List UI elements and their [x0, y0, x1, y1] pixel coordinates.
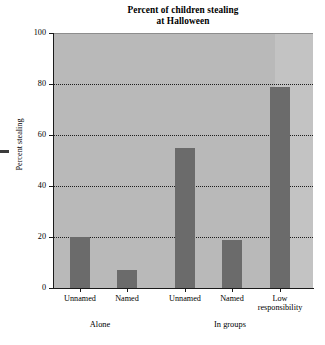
group-label-in-groups-text: In groups — [214, 320, 246, 329]
group-label-alone: Alone — [68, 320, 132, 329]
y-tick-label-100: 100 — [6, 29, 46, 37]
x-tick-label-low-line2: responsibility — [243, 303, 317, 312]
x-tick-3 — [185, 288, 186, 292]
y-tick-label-40: 40 — [6, 182, 46, 190]
x-tick-label-low-line1: Low — [272, 294, 287, 303]
y-tick-label-80: 80 — [6, 80, 46, 88]
x-tick-4 — [232, 288, 233, 292]
y-axis-title: Percent stealing — [15, 95, 24, 195]
chart-figure: Percent of children stealing at Hallowee… — [0, 0, 325, 345]
y-tick-60 — [49, 135, 53, 136]
y-tick-label-60: 60 — [6, 131, 46, 139]
chart-title: Percent of children stealing at Hallowee… — [53, 5, 313, 26]
x-tick-2 — [127, 288, 128, 292]
x-tick-label-alone-unnamed-line1: Unnamed — [64, 294, 96, 303]
y-tick-label-20: 20 — [6, 233, 46, 241]
scan-edge-artifact — [0, 150, 9, 153]
chart-title-line-1: Percent of children stealing — [53, 5, 313, 16]
y-tick-40 — [49, 186, 53, 187]
x-tick-label-alone-named: Named — [95, 294, 159, 303]
group-label-in-groups: In groups — [198, 320, 262, 329]
y-tick-label-0: 0 — [6, 284, 46, 292]
y-tick-100 — [49, 33, 53, 34]
gridline-80 — [53, 84, 313, 85]
x-tick-1 — [80, 288, 81, 292]
bar-groups-unnamed — [175, 148, 195, 288]
y-axis-line — [53, 33, 54, 289]
x-tick-label-groups-low-responsibility: Low responsibility — [243, 294, 317, 313]
y-tick-80 — [49, 84, 53, 85]
x-tick-label-alone-named-line1: Named — [115, 294, 139, 303]
x-tick-label-groups-named-line1: Named — [220, 294, 244, 303]
bar-groups-low-responsibility — [270, 87, 290, 289]
bar-alone-unnamed — [70, 237, 90, 288]
bar-alone-named — [117, 270, 137, 288]
y-tick-20 — [49, 237, 53, 238]
x-tick-5 — [280, 288, 281, 292]
bar-groups-named — [222, 240, 242, 288]
y-tick-0 — [49, 288, 53, 289]
chart-title-line-2: at Halloween — [53, 16, 313, 27]
x-tick-label-groups-unnamed-line1: Unnamed — [169, 294, 201, 303]
group-label-alone-text: Alone — [90, 320, 110, 329]
